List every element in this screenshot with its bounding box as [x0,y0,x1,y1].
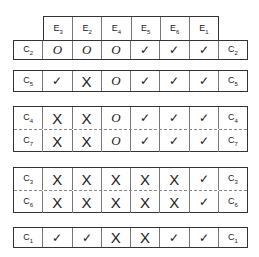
check-mark-icon: ✓ [160,41,189,59]
check-mark-icon: ✓ [73,228,102,247]
row-label-right: C2 [219,41,247,59]
row-label: C5 [228,75,238,87]
row-label-right: C3 [219,168,247,190]
row-label: C1 [23,232,33,244]
column-label: E6 [170,23,179,35]
cross-mark-icon: X [73,168,102,190]
header-cell-e1: E1 [190,17,218,40]
cross-mark-icon: X [102,168,131,190]
header-cell-e5: E5 [132,17,161,40]
check-mark-icon: ✓ [160,71,189,91]
check-mark-icon: ✓ [43,228,72,247]
circle-mark-icon: O [43,41,72,59]
row-label-right: C5 [219,71,247,91]
check-mark-icon: ✓ [190,41,219,59]
circle-mark-icon: O [73,41,102,59]
circle-mark-icon: O [102,130,131,152]
cross-mark-icon: X [131,228,160,247]
row-label-left: C3 [14,168,43,190]
row-label: C7 [23,135,33,147]
table-row: C7XXO✓✓✓C7 [14,129,247,152]
check-mark-icon: ✓ [131,41,160,59]
row-label: C6 [23,196,33,208]
check-mark-icon: ✓ [190,228,219,247]
cross-mark-icon: X [102,191,131,213]
check-mark-icon: ✓ [131,107,160,129]
cross-mark-icon: X [160,191,189,213]
row-label: C5 [23,75,33,87]
cross-mark-icon: X [131,191,160,213]
cross-mark-icon: X [73,191,102,213]
row-label: C1 [228,232,238,244]
cross-mark-icon: X [43,107,72,129]
row-label-left: C4 [14,107,43,129]
row-label-right: C7 [219,130,247,152]
row-label-left: C6 [14,191,43,213]
row-label-left: C1 [14,228,43,247]
header-cell-e4: E4 [102,17,131,40]
circle-mark-icon: O [102,71,131,91]
row-label: C4 [228,112,238,124]
check-mark-icon: ✓ [190,191,219,213]
check-mark-icon: ✓ [131,130,160,152]
row-label-right: C4 [219,107,247,129]
cross-mark-icon: X [102,228,131,247]
header-cell-e3: E3 [44,17,73,40]
header-cell-e6: E6 [161,17,190,40]
column-label: E5 [141,23,150,35]
column-label: E4 [112,23,121,35]
check-mark-icon: ✓ [190,130,219,152]
column-label: E3 [53,23,62,35]
row-label: C7 [228,135,238,147]
row-label: C2 [23,44,33,56]
cross-mark-icon: X [73,71,102,91]
row-label: C4 [23,112,33,124]
column-header: E3E2E4E5E6E1 [43,16,219,40]
check-mark-icon: ✓ [160,130,189,152]
check-mark-icon: ✓ [160,228,189,247]
cross-mark-icon: X [43,168,72,190]
table-row: C3XXXXX✓C3 [14,168,247,190]
column-label: E2 [83,23,92,35]
row-label-right: C1 [219,228,247,247]
row-group: C4XXO✓✓✓C4C7XXO✓✓✓C7 [13,106,248,152]
cross-mark-icon: X [73,130,102,152]
circle-mark-icon: O [102,41,131,59]
check-mark-icon: ✓ [190,107,219,129]
cross-mark-icon: X [43,191,72,213]
cross-mark-icon: X [160,168,189,190]
check-mark-icon: ✓ [43,71,72,91]
table-row: C6XXXXX✓C6 [14,190,247,213]
cross-mark-icon: X [73,107,102,129]
check-mark-icon: ✓ [160,107,189,129]
table-row: C5✓XO✓✓✓C5 [14,71,247,91]
cross-mark-icon: X [131,168,160,190]
row-group: C2OOO✓✓✓C2 [13,40,248,60]
row-label: C3 [228,173,238,185]
row-group: C3XXXXX✓C3C6XXXXX✓C6 [13,167,248,213]
check-mark-icon: ✓ [190,168,219,190]
row-group: C5✓XO✓✓✓C5 [13,70,248,92]
column-label: E1 [199,23,208,35]
row-label: C2 [228,44,238,56]
table-row: C2OOO✓✓✓C2 [14,41,247,59]
check-mark-icon: ✓ [190,71,219,91]
row-label-left: C7 [14,130,43,152]
row-label-left: C5 [14,71,43,91]
table-row: C4XXO✓✓✓C4 [14,107,247,129]
header-cell-e2: E2 [73,17,102,40]
circle-mark-icon: O [102,107,131,129]
row-label: C6 [228,196,238,208]
row-group: C1✓✓XX✓✓C1 [13,227,248,248]
table-row: C1✓✓XX✓✓C1 [14,228,247,247]
check-mark-icon: ✓ [131,71,160,91]
row-label-right: C6 [219,191,247,213]
row-label-left: C2 [14,41,43,59]
cross-mark-icon: X [43,130,72,152]
row-label: C3 [23,173,33,185]
